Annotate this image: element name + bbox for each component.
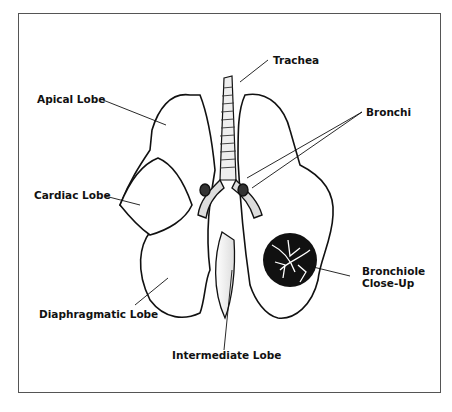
label-bronchi: Bronchi (366, 106, 411, 118)
label-diaphragmatic-lobe: Diaphragmatic Lobe (39, 308, 158, 320)
label-intermediate-lobe: Intermediate Lobe (172, 349, 281, 361)
label-apical-lobe: Apical Lobe (37, 93, 105, 105)
label-bronchiole-line2: Close-Up (362, 277, 414, 289)
label-cardiac-lobe: Cardiac Lobe (34, 189, 111, 201)
bronchiole-closeup (263, 233, 317, 287)
label-bronchiole-line1: Bronchiole (362, 265, 425, 277)
label-trachea: Trachea (273, 54, 319, 66)
trachea-shape (220, 76, 236, 180)
